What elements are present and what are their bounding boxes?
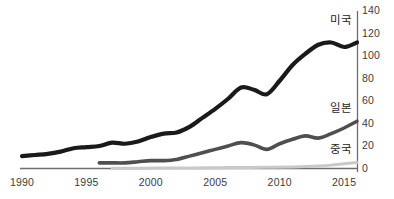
y-tick-label: 100: [362, 49, 380, 61]
x-tick-label: 1995: [66, 176, 106, 188]
x-tick-label: 2010: [260, 176, 300, 188]
x-tick-label: 2000: [131, 176, 171, 188]
x-tick-label: 2005: [195, 176, 235, 188]
series-line-3: [112, 162, 357, 168]
y-tick-label: 80: [362, 72, 374, 84]
y-tick-label: 140: [362, 4, 380, 16]
y-tick-label: 0: [362, 162, 368, 174]
series-label-2: 일본: [320, 99, 352, 115]
x-tick-label: 2015: [324, 176, 364, 188]
series-paths: [22, 42, 357, 168]
line-chart: 020406080100120140 199019952000200520102…: [0, 0, 394, 199]
y-tick-label: 40: [362, 117, 374, 129]
series-label-1: 미국: [320, 11, 352, 27]
series-line-1: [22, 42, 357, 156]
series-label-3: 중국: [320, 140, 352, 156]
y-tick-label: 20: [362, 139, 374, 151]
y-tick-label: 120: [362, 27, 380, 39]
x-tick-label: 1990: [2, 176, 42, 188]
y-tick-label: 60: [362, 94, 374, 106]
